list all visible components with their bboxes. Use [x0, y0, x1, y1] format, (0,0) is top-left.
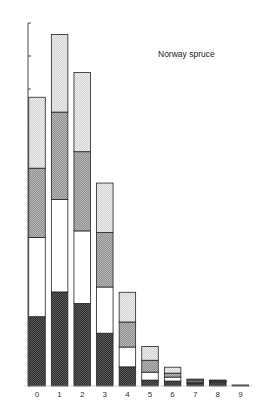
bar-segment [51, 200, 68, 292]
x-tick-label: 9 [238, 390, 243, 399]
bar-segment [97, 233, 114, 287]
bars-group [29, 35, 249, 386]
x-tick-labels: 0123456789 [35, 390, 243, 399]
x-tick-label: 4 [125, 390, 130, 399]
bar-segment [29, 97, 46, 168]
bar-segment [74, 304, 91, 387]
bar-segment [164, 377, 181, 381]
bar-segment [51, 112, 68, 199]
bar-segment [97, 183, 114, 233]
bar-stack-6 [164, 367, 181, 386]
bar-segment [119, 367, 135, 386]
bar-segment [97, 333, 114, 386]
bar-segment [119, 322, 135, 347]
x-tick-label: 2 [80, 390, 85, 399]
bar-segment [29, 238, 46, 317]
bar-segment [74, 231, 91, 304]
bar-stack-4 [119, 292, 135, 386]
bar-segment [142, 380, 159, 386]
bar-stack-3 [97, 183, 114, 386]
bar-segment [187, 383, 204, 386]
bar-segment [142, 346, 159, 360]
bar-segment [97, 287, 114, 333]
chart-annotation: Norway spruce [158, 49, 215, 59]
x-tick-label: 7 [193, 390, 198, 399]
bar-stack-0 [29, 97, 46, 386]
bar-segment [187, 379, 204, 380]
bar-segment [210, 382, 227, 386]
bar-segment [142, 360, 159, 372]
x-tick-label: 3 [103, 390, 108, 399]
bar-segment [74, 152, 91, 231]
x-tick-label: 1 [57, 390, 62, 399]
bar-segment [29, 168, 46, 237]
bar-segment [74, 73, 91, 152]
bar-segment [164, 367, 181, 373]
bar-segment [142, 372, 159, 380]
bar-segment [51, 292, 68, 386]
bar-stack-1 [51, 35, 68, 386]
bar-segment [164, 381, 181, 386]
bar-segment [119, 347, 135, 367]
x-tick-label: 6 [170, 390, 175, 399]
bar-stack-5 [142, 346, 159, 386]
bar-stack-8 [210, 380, 227, 386]
stacked-bar-chart: 0123456789 Norway spruce [0, 0, 262, 405]
bar-segment [119, 292, 135, 322]
x-tick-label: 8 [216, 390, 221, 399]
x-tick-label: 0 [35, 390, 40, 399]
bar-segment [164, 373, 181, 377]
bar-stack-2 [74, 73, 91, 387]
bar-segment [29, 317, 46, 386]
bar-segment [51, 35, 68, 113]
x-tick-label: 5 [148, 390, 153, 399]
bar-stack-7 [187, 379, 204, 386]
